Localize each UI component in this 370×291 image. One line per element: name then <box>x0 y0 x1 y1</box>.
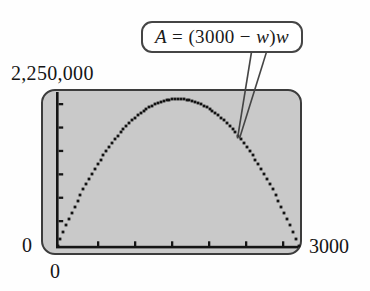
formula-var-w2: w <box>276 26 289 48</box>
y-max-label: 2,250,000 <box>11 63 94 83</box>
formula-mid: = (3000 − <box>167 26 256 48</box>
formula-close-paren: ) <box>269 26 276 48</box>
formula-var-A: A <box>155 26 167 48</box>
x-origin-label: 0 <box>50 261 60 281</box>
y-origin-label: 0 <box>22 235 32 255</box>
formula-var-w1: w <box>256 26 269 48</box>
calculator-screen <box>41 89 302 255</box>
formula-callout: A = (3000 − w)w <box>141 21 303 53</box>
figure: 2,250,000 0 0 3000 A = (3000 − w)w <box>0 0 370 291</box>
x-max-label: 3000 <box>309 236 349 256</box>
